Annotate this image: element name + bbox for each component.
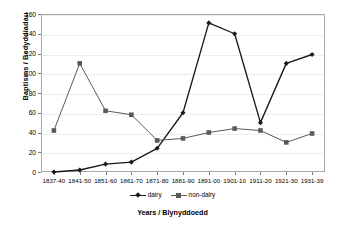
x-tick-label: 1901-10 — [223, 177, 246, 184]
x-tick-mark — [131, 172, 132, 175]
x-tick-mark — [80, 172, 81, 175]
legend-label: dairy — [148, 191, 162, 199]
x-tick-mark — [286, 172, 287, 175]
x-tick-label: 1837-40 — [43, 177, 66, 184]
x-tick-label: 1921-30 — [275, 177, 298, 184]
x-tick-label: 1911-20 — [249, 177, 271, 184]
x-tick-mark — [209, 172, 210, 175]
x-tick-label: 1931-39 — [301, 177, 324, 184]
legend-item-dairy[interactable]: dairy — [130, 191, 162, 199]
legend-marker-diamond-icon — [130, 191, 146, 199]
x-tick-mark — [54, 172, 55, 175]
x-tick-mark — [106, 172, 107, 175]
legend-marker-square-icon — [171, 191, 187, 199]
x-tick-label: 1841-50 — [68, 177, 91, 184]
x-tick-mark — [260, 172, 261, 175]
line-chart: Baptisms / Bedyddiadau 02040608010012014… — [0, 0, 345, 227]
x-tick-mark — [312, 172, 313, 175]
x-tick-label: 1881-90 — [172, 177, 195, 184]
x-tick-label: 1871-80 — [146, 177, 169, 184]
x-tick-label: 1851-60 — [94, 177, 117, 184]
x-tick-label: 1891-00 — [197, 177, 220, 184]
x-axis-title: Years / Blynyddoedd — [0, 208, 345, 217]
chart-legend: dairynon-dairy — [0, 191, 345, 199]
legend-label: non-dairy — [189, 191, 216, 199]
x-tick-mark — [157, 172, 158, 175]
legend-item-non-dairy[interactable]: non-dairy — [171, 191, 216, 199]
x-tick-label: 1861-70 — [120, 177, 143, 184]
x-tick-mark — [235, 172, 236, 175]
x-tick-mark — [183, 172, 184, 175]
